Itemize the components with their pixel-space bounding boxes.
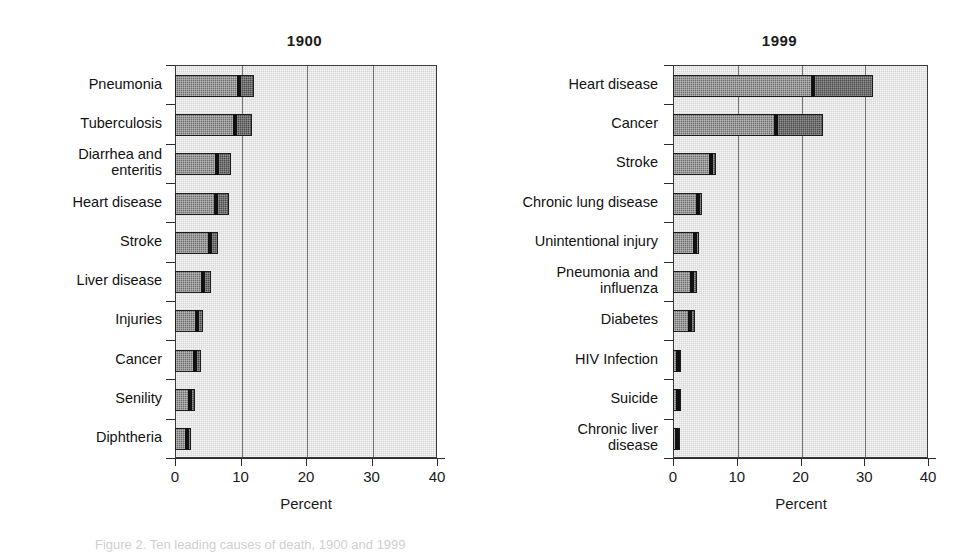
category-label-6: Injuries [6, 311, 162, 327]
category-label-4: Stroke [6, 233, 162, 249]
x-axis-title-1999: Percent [731, 495, 871, 512]
y-tick-1 [166, 104, 175, 105]
bar-1999-4 [673, 232, 699, 254]
bar-1999-9 [673, 428, 680, 450]
category-label-9: Diphtheria [6, 429, 162, 445]
y-tick-8 [166, 379, 175, 380]
bar-segment-light [673, 75, 811, 97]
x-tick-20 [306, 458, 307, 466]
bar-segment-light [175, 389, 188, 411]
x-tick-label-10: 10 [221, 468, 261, 485]
category-label-7: Cancer [6, 351, 162, 367]
category-label-7: HIV Infection [490, 351, 658, 367]
bar-1900-0 [175, 75, 254, 97]
bar-segment-dark [237, 114, 251, 136]
y-tick-7 [664, 340, 673, 341]
y-tick-4 [664, 222, 673, 223]
bar-1900-6 [175, 310, 203, 332]
bar-segment-dark [680, 389, 681, 411]
bar-segment-dark [205, 271, 212, 293]
y-tick-2 [664, 144, 673, 145]
bar-1900-7 [175, 350, 201, 372]
bar-segment-light [673, 310, 688, 332]
category-label-2: Stroke [490, 154, 658, 170]
gridline-20 [307, 66, 308, 457]
category-label-3: Chronic lung disease [490, 194, 658, 210]
category-label-1: Cancer [490, 115, 658, 131]
bar-segment-light [175, 310, 195, 332]
bar-1900-5 [175, 271, 211, 293]
bar-1900-2 [175, 153, 231, 175]
bar-segment-light [175, 271, 201, 293]
bar-segment-light [673, 232, 693, 254]
category-label-2: Diarrhea and enteritis [6, 146, 162, 178]
bar-segment-dark [241, 75, 254, 97]
bar-segment-light [175, 153, 215, 175]
bar-1999-3 [673, 193, 702, 215]
y-tick-6 [664, 301, 673, 302]
bar-segment-light [673, 153, 709, 175]
bar-segment-light [175, 232, 208, 254]
y-tick-0 [166, 65, 175, 66]
bar-segment-light [673, 193, 696, 215]
bar-segment-dark [694, 271, 696, 293]
bar-segment-dark [212, 232, 219, 254]
bar-1900-1 [175, 114, 252, 136]
bar-segment-dark [199, 310, 203, 332]
bar-1999-1 [673, 114, 823, 136]
bar-1999-8 [673, 389, 681, 411]
x-tick-label-20: 20 [286, 468, 326, 485]
bar-segment-light [673, 114, 774, 136]
bar-segment-dark [189, 428, 191, 450]
bar-segment-dark [197, 350, 201, 372]
category-label-5: Pneumonia and influenza [490, 264, 658, 296]
bar-segment-dark [778, 114, 823, 136]
y-tick-0 [664, 65, 673, 66]
x-tick-20 [801, 458, 802, 466]
x-tick-label-10: 10 [717, 468, 757, 485]
x-tick-label-30: 30 [352, 468, 392, 485]
y-tick-6 [166, 301, 175, 302]
chart-title-1999: 1999 [480, 32, 959, 49]
x-tick-10 [241, 458, 242, 466]
category-label-8: Senility [6, 390, 162, 406]
y-tick-5 [664, 262, 673, 263]
category-label-0: Heart disease [490, 76, 658, 92]
category-label-9: Chronic liver disease [490, 421, 658, 453]
y-tick-9 [166, 419, 175, 420]
bar-segment-dark [679, 428, 680, 450]
figure-caption: Figure 2. Ten leading causes of death, 1… [95, 537, 895, 552]
chart-panel-1999: 1999 Percent Heart diseaseCancerStrokeCh… [480, 0, 959, 551]
x-tick-label-0: 0 [155, 468, 195, 485]
x-tick-40 [928, 458, 929, 466]
x-tick-label-0: 0 [653, 468, 693, 485]
bar-1999-2 [673, 153, 716, 175]
category-label-5: Liver disease [6, 272, 162, 288]
x-tick-label-30: 30 [844, 468, 884, 485]
y-tick-4 [166, 222, 175, 223]
y-tick-10 [664, 458, 673, 459]
gridline-30 [373, 66, 374, 457]
x-tick-30 [864, 458, 865, 466]
bar-segment-dark [692, 310, 695, 332]
bar-segment-light [175, 428, 185, 450]
category-label-6: Diabetes [490, 311, 658, 327]
bar-segment-light [673, 271, 690, 293]
bar-segment-light [175, 350, 193, 372]
bar-segment-dark [700, 193, 702, 215]
gridline-30 [865, 66, 866, 457]
chart-panel-1900: 1900 Percent PneumoniaTuberculosisDiarrh… [0, 0, 479, 551]
bar-1900-9 [175, 428, 191, 450]
x-tick-0 [175, 458, 176, 466]
category-label-3: Heart disease [6, 194, 162, 210]
category-label-4: Unintentional injury [490, 233, 658, 249]
bar-segment-dark [713, 153, 717, 175]
category-label-0: Pneumonia [6, 76, 162, 92]
y-tick-10 [166, 458, 175, 459]
category-label-8: Suicide [490, 390, 658, 406]
x-axis-title-1900: Percent [236, 495, 376, 512]
bar-segment-light [175, 114, 233, 136]
bar-segment-dark [219, 153, 231, 175]
chart-title-1900: 1900 [0, 32, 479, 49]
